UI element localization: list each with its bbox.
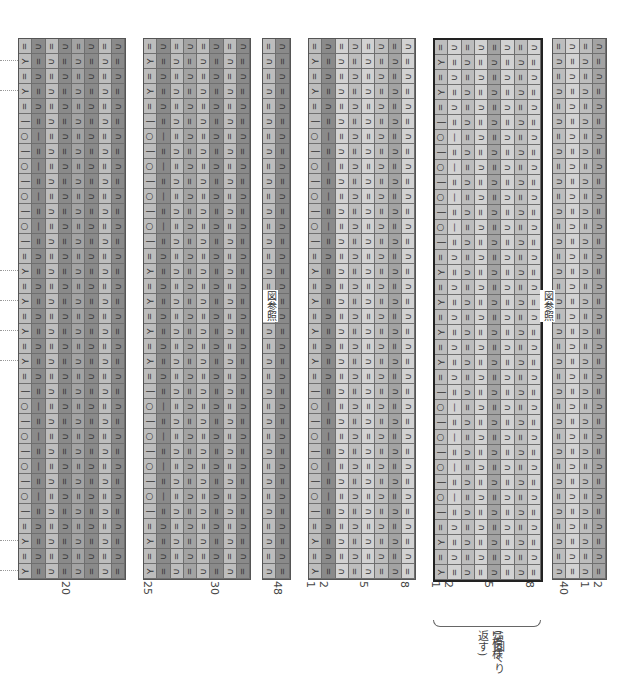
chart-cell: ∩ bbox=[157, 99, 170, 114]
chart-cell: ∩ bbox=[99, 174, 112, 189]
chart-cell: = bbox=[197, 129, 210, 144]
chart-cell: ∩ bbox=[475, 520, 488, 535]
guide-line bbox=[0, 540, 18, 541]
chart-cell: ∩ bbox=[112, 279, 125, 294]
chart-cell: = bbox=[475, 55, 488, 70]
chart-cell: ∩ bbox=[475, 550, 488, 565]
chart-cell: ∩ bbox=[362, 54, 375, 69]
chart-cell: ∩ bbox=[336, 354, 349, 369]
chart-cell: ∩ bbox=[402, 339, 415, 354]
chart-cell: = bbox=[19, 99, 32, 114]
chart-cell: ∩ bbox=[475, 280, 488, 295]
chart-cell: — bbox=[32, 129, 45, 144]
chart-cell: = bbox=[501, 145, 514, 160]
chart-cell: ∩ bbox=[462, 265, 475, 280]
chart-cell: ∩ bbox=[72, 324, 85, 339]
chart-cell: = bbox=[112, 474, 125, 489]
chart-cell: = bbox=[553, 39, 566, 54]
chart-cell: = bbox=[488, 550, 501, 565]
chart-cell: = bbox=[349, 144, 362, 159]
chart-cell: = bbox=[210, 144, 223, 159]
chart-cell: ∩ bbox=[85, 399, 98, 414]
chart-cell: = bbox=[322, 384, 335, 399]
chart-cell: ○ bbox=[309, 459, 322, 474]
chart-cell: = bbox=[389, 219, 402, 234]
chart-cell: = bbox=[157, 294, 170, 309]
guide-line bbox=[0, 570, 18, 571]
chart-cell: — bbox=[157, 159, 170, 174]
chart-cell: | bbox=[435, 475, 448, 490]
chart-cell: = bbox=[566, 144, 579, 159]
chart-cell: = bbox=[553, 219, 566, 234]
chart-cell: ∩ bbox=[210, 459, 223, 474]
chart-cell: = bbox=[46, 519, 59, 534]
chart-cell: = bbox=[389, 399, 402, 414]
chart-cell: ∩ bbox=[99, 294, 112, 309]
chart-cell: = bbox=[237, 384, 250, 399]
chart-cell: = bbox=[184, 534, 197, 549]
chart-cell: = bbox=[389, 39, 402, 54]
chart-cell: = bbox=[276, 174, 289, 189]
chart-cell: = bbox=[263, 519, 276, 534]
chart-cell: ∩ bbox=[184, 249, 197, 264]
chart-cell: = bbox=[462, 520, 475, 535]
chart-cell: ∩ bbox=[501, 250, 514, 265]
chart-cell: = bbox=[85, 354, 98, 369]
chart-cell: = bbox=[528, 325, 541, 340]
chart-cell: ∩ bbox=[263, 324, 276, 339]
chart-cell: ∩ bbox=[263, 264, 276, 279]
chart-cell: = bbox=[112, 534, 125, 549]
chart-cell: ∩ bbox=[112, 159, 125, 174]
chart-cell: = bbox=[171, 399, 184, 414]
chart-cell: = bbox=[276, 504, 289, 519]
chart-cell: ∩ bbox=[276, 399, 289, 414]
chart-cell: ∩ bbox=[362, 564, 375, 579]
chart-cell: = bbox=[528, 115, 541, 130]
chart-cell: = bbox=[59, 504, 72, 519]
chart-cell: = bbox=[210, 54, 223, 69]
chart-cell: ∩ bbox=[402, 159, 415, 174]
chart-cell: — bbox=[32, 429, 45, 444]
chart-cell: ∩ bbox=[276, 39, 289, 54]
chart-cell: ⅄ bbox=[144, 534, 157, 549]
chart-cell: = bbox=[85, 204, 98, 219]
chart-cell: ∩ bbox=[462, 445, 475, 460]
chart-cell: = bbox=[566, 414, 579, 429]
chart-cell: ∩ bbox=[580, 174, 593, 189]
column-number: 30 bbox=[208, 581, 221, 595]
column-number: 2 bbox=[591, 581, 604, 588]
chart-cell: = bbox=[528, 205, 541, 220]
chart-cell: = bbox=[336, 549, 349, 564]
chart-cell: = bbox=[210, 174, 223, 189]
chart-cell: = bbox=[475, 175, 488, 190]
chart-cell: ∩ bbox=[171, 114, 184, 129]
chart-cell: | bbox=[309, 444, 322, 459]
chart-cell: = bbox=[276, 444, 289, 459]
chart-cell: = bbox=[553, 129, 566, 144]
chart-cell: = bbox=[566, 204, 579, 219]
chart-cell: ∩ bbox=[85, 549, 98, 564]
chart-cell: ∩ bbox=[362, 534, 375, 549]
chart-cell: ∩ bbox=[336, 84, 349, 99]
chart-cell: = bbox=[515, 430, 528, 445]
chart-cell: = bbox=[144, 309, 157, 324]
chart-cell: = bbox=[309, 39, 322, 54]
chart-cell: = bbox=[580, 129, 593, 144]
chart-cell: = bbox=[171, 159, 184, 174]
chart-cell: = bbox=[112, 114, 125, 129]
chart-cell: = bbox=[488, 280, 501, 295]
chart-cell: = bbox=[488, 340, 501, 355]
chart-cell: ∩ bbox=[72, 294, 85, 309]
chart-cell: = bbox=[184, 354, 197, 369]
chart-cell: ∩ bbox=[72, 234, 85, 249]
chart-cell: ∩ bbox=[112, 489, 125, 504]
chart-cell: ∩ bbox=[59, 159, 72, 174]
chart-cell: = bbox=[112, 324, 125, 339]
column-number: 2 bbox=[317, 581, 330, 588]
chart-cell: = bbox=[276, 144, 289, 159]
chart-cell: ∩ bbox=[32, 249, 45, 264]
chart-cell: ∩ bbox=[389, 264, 402, 279]
chart-cell: ∩ bbox=[566, 309, 579, 324]
chart-cell: = bbox=[112, 144, 125, 159]
chart-cell: = bbox=[488, 490, 501, 505]
